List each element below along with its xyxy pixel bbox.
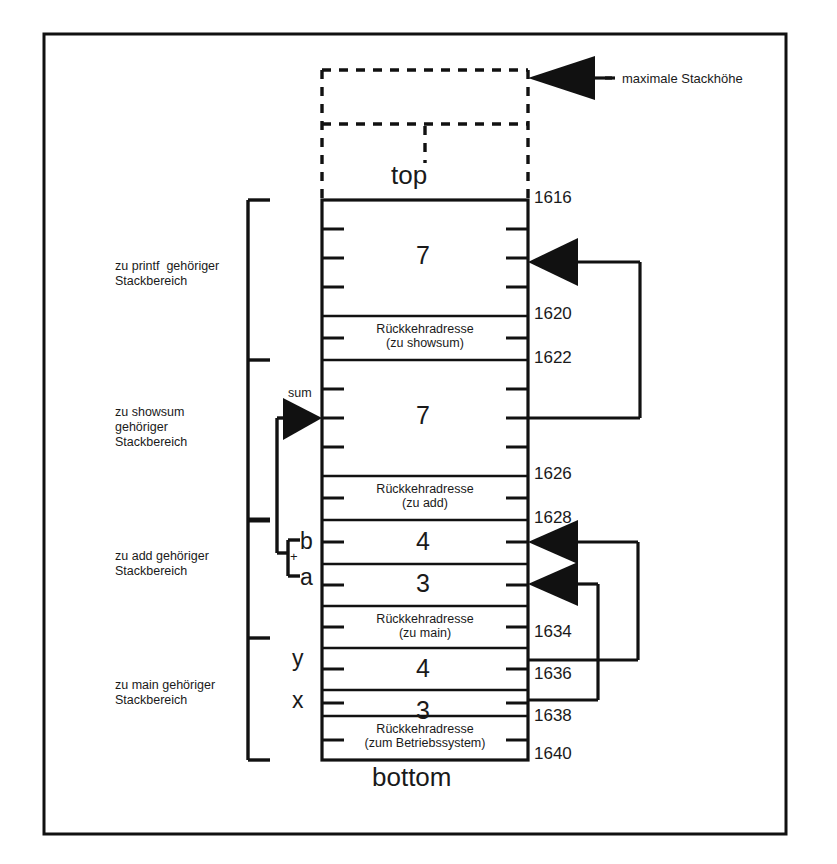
var-label-sum: sum [288,386,312,400]
cell-add-a: 3 [416,569,430,598]
cell-ret-showsum: Rückkehradresse (zu showsum) [322,322,528,350]
address-1638: 1638 [534,706,572,726]
cell-add-b: 4 [416,527,430,556]
region-label-add: zu add gehöriger Stackbereich [115,549,209,579]
operator-plus: + [290,549,298,564]
cell-showsum-value: 7 [416,401,430,430]
cell-main-x: 3 [416,696,430,725]
address-1634: 1634 [534,622,572,642]
var-label-a: a [300,564,313,591]
address-1628: 1628 [534,508,572,528]
cell-ret-add: Rückkehradresse (zu add) [322,482,528,510]
address-1622: 1622 [534,348,572,368]
address-1640: 1640 [534,744,572,764]
address-1620: 1620 [534,304,572,324]
var-label-b: b [300,528,313,555]
cell-main-y: 4 [416,654,430,683]
address-1616: 1616 [534,188,572,208]
address-1636: 1636 [534,664,572,684]
bottom-label: bottom [372,762,452,793]
cell-ret-os: Rückkehradresse (zum Betriebssystem) [322,722,528,750]
var-label-x: x [292,687,304,714]
max-stack-label: maximale Stackhöhe [622,71,743,86]
top-label: top [391,160,427,191]
address-1626: 1626 [534,464,572,484]
region-label-main: zu main gehöriger Stackbereich [115,678,215,708]
cell-ret-main: Rückkehradresse (zu main) [322,612,528,640]
cell-printf-value: 7 [416,241,430,270]
region-label-printf: zu printf gehöriger Stackbereich [115,259,219,289]
stack-diagram: maximale Stackhöhe top bottom zu printf … [0,0,837,864]
region-label-showsum: zu showsum gehöriger Stackbereich [115,405,187,450]
var-label-y: y [292,645,304,672]
